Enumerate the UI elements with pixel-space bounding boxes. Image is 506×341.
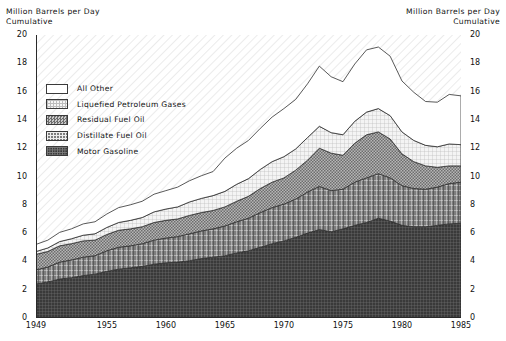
y-axis-label-left: 2 — [0, 286, 27, 294]
y-axis-label-right: 8 — [470, 201, 504, 209]
y-axis-label-left: 18 — [0, 59, 27, 67]
legend-label-motor-gasoline: Motor Gasoline — [77, 147, 138, 156]
y-axis-label-right: 18 — [470, 59, 504, 67]
legend-label-lpg: Liquefied Petroleum Gases — [77, 100, 186, 109]
legend-item-lpg[interactable]: Liquefied Petroleum Gases — [46, 97, 186, 113]
y-axis-label-left: 10 — [0, 173, 27, 181]
legend-label-all-other: All Other — [77, 84, 113, 93]
y-axis-label-right: 2 — [470, 286, 504, 294]
plot-frame — [36, 35, 461, 318]
y-axis-label-left: 8 — [0, 201, 27, 209]
y-axis-label-right: 0 — [470, 314, 504, 322]
chart-legend: All Other Liquefied Petroleum Gases Resi… — [46, 81, 186, 159]
legend-item-all-other[interactable]: All Other — [46, 81, 186, 97]
y-axis-label-right: 20 — [470, 31, 504, 39]
plot-area — [36, 35, 461, 318]
x-axis-label: 1960 — [156, 322, 176, 330]
legend-swatch-motor-gasoline — [46, 146, 68, 156]
y-axis-label-left: 12 — [0, 144, 27, 152]
x-axis-label: 1949 — [26, 322, 46, 330]
legend-label-distillate-fuel-oil: Distillate Fuel Oil — [77, 131, 147, 140]
x-axis-label: 1955 — [97, 322, 117, 330]
y-axis-label-right: 4 — [470, 257, 504, 265]
y-axis-label-right: 12 — [470, 144, 504, 152]
y-axis-label-right: 16 — [470, 88, 504, 96]
y-axis-label-left: 0 — [0, 314, 27, 322]
legend-swatch-lpg — [46, 99, 68, 109]
x-axis-label: 1970 — [274, 322, 294, 330]
y-axis-label-right: 10 — [470, 173, 504, 181]
y-axis-label-left: 4 — [0, 257, 27, 265]
y-axis-label-left: 20 — [0, 31, 27, 39]
legend-label-residual-fuel-oil: Residual Fuel Oil — [77, 115, 145, 124]
y-axis-label-right: 14 — [470, 116, 504, 124]
x-axis-label: 1975 — [333, 322, 353, 330]
legend-swatch-all-other — [46, 84, 68, 94]
y-axis-label-right: 6 — [470, 229, 504, 237]
legend-swatch-residual-fuel-oil — [46, 115, 68, 125]
header-label-left: Million Barrels per Day Cumulative — [6, 7, 100, 26]
legend-item-residual-fuel-oil[interactable]: Residual Fuel Oil — [46, 112, 186, 128]
y-axis-label-left: 16 — [0, 88, 27, 96]
x-axis-label: 1965 — [215, 322, 235, 330]
legend-item-distillate-fuel-oil[interactable]: Distillate Fuel Oil — [46, 128, 186, 144]
chart-page: Million Barrels per Day Cumulative Milli… — [0, 0, 506, 341]
x-axis-label: 1980 — [392, 322, 412, 330]
legend-swatch-distillate-fuel-oil — [46, 131, 68, 141]
y-axis-label-left: 6 — [0, 229, 27, 237]
header-label-right: Million Barrels per Day Cumulative — [406, 7, 500, 26]
legend-item-motor-gasoline[interactable]: Motor Gasoline — [46, 143, 186, 159]
x-axis-label: 1985 — [451, 322, 471, 330]
y-axis-label-left: 14 — [0, 116, 27, 124]
